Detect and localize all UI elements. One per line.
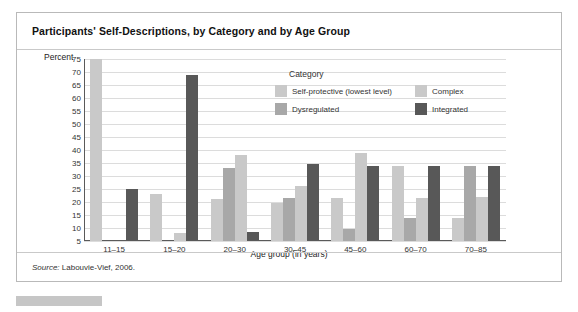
bar <box>186 75 198 241</box>
legend: Category Self-protective (lowest level)C… <box>275 69 485 115</box>
bar <box>367 166 379 241</box>
legend-label: Integrated <box>432 105 468 114</box>
source-citation: Labouvie-Vief, 2006. <box>60 263 135 272</box>
y-tick-label: 30 <box>72 172 81 181</box>
bar-group <box>84 59 144 241</box>
source-label: Source: <box>32 263 60 272</box>
y-tick-label: 20 <box>72 198 81 207</box>
legend-swatch <box>415 85 427 97</box>
legend-label: Dysregulated <box>292 105 339 114</box>
legend-title: Category <box>289 69 485 79</box>
bar <box>343 229 355 241</box>
y-tick-label: 15 <box>72 211 81 220</box>
bar-group <box>144 59 204 241</box>
bar <box>488 166 500 241</box>
y-tick-label: 65 <box>72 81 81 90</box>
y-tick-label: 70 <box>72 68 81 77</box>
bar <box>271 203 283 241</box>
bar <box>464 166 476 241</box>
y-tick-label: 45 <box>72 133 81 142</box>
bar <box>392 166 404 241</box>
gridline <box>84 241 506 242</box>
bar <box>235 155 247 241</box>
bar <box>416 198 428 241</box>
bar <box>90 59 102 241</box>
bar <box>295 186 307 241</box>
x-axis-title: Age group (in years) <box>17 249 561 259</box>
y-tick-label: 5 <box>77 237 81 246</box>
legend-items: Self-protective (lowest level)ComplexDys… <box>275 85 485 115</box>
bar <box>476 197 488 241</box>
y-tick-label: 10 <box>72 224 81 233</box>
bar <box>283 198 295 241</box>
figure-panel: Participants' Self-Descriptions, by Cate… <box>16 12 562 282</box>
y-tick-label: 55 <box>72 107 81 116</box>
y-tick-label: 50 <box>72 120 81 129</box>
legend-label: Complex <box>432 87 464 96</box>
y-tick-label: 75 <box>72 55 81 64</box>
legend-swatch <box>275 85 287 97</box>
bar <box>223 168 235 241</box>
legend-item: Complex <box>415 85 485 97</box>
legend-label: Self-protective (lowest level) <box>292 87 392 96</box>
bar <box>150 194 162 241</box>
bar <box>331 198 343 241</box>
bar <box>174 233 186 241</box>
y-tick-label: 35 <box>72 159 81 168</box>
bar <box>404 218 416 241</box>
bar <box>211 199 223 241</box>
legend-swatch <box>275 103 287 115</box>
source-note: Source: Labouvie-Vief, 2006. <box>32 263 135 272</box>
y-tick-label: 60 <box>72 94 81 103</box>
bar <box>355 153 367 241</box>
title-divider <box>17 49 561 50</box>
y-tick-label: 25 <box>72 185 81 194</box>
legend-item: Dysregulated <box>275 103 409 115</box>
page-footer-bar <box>16 296 102 306</box>
source-divider <box>17 252 561 253</box>
bar <box>247 232 259 241</box>
bar-group <box>205 59 265 241</box>
bar <box>452 218 464 241</box>
legend-item: Self-protective (lowest level) <box>275 85 409 97</box>
bar <box>126 189 138 241</box>
y-tick-label: 40 <box>72 146 81 155</box>
bar <box>428 166 440 241</box>
y-axis-tick-labels: 75706560555045403530252015105 <box>57 59 81 241</box>
legend-item: Integrated <box>415 103 485 115</box>
bar <box>307 164 319 241</box>
page-title: Participants' Self-Descriptions, by Cate… <box>32 25 350 37</box>
legend-swatch <box>415 103 427 115</box>
